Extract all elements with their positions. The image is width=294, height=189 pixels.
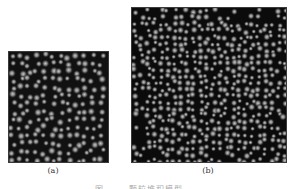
- particle-packing-b: [132, 8, 286, 162]
- panel-a-image: [8, 51, 109, 163]
- figure-caption: 图 —— 颗粒堆积模型: [95, 183, 225, 189]
- panel-b-label: (b): [193, 166, 223, 175]
- particle-packing-a: [9, 52, 108, 162]
- panel-b-image: [131, 7, 287, 163]
- panel-a-label: (a): [33, 166, 73, 175]
